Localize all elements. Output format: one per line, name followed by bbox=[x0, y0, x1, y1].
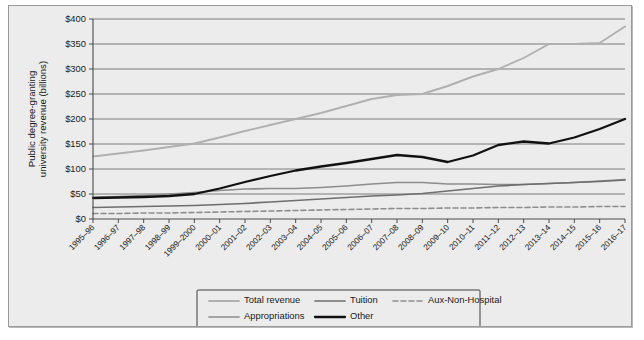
x-tick-label: 2015–16 bbox=[573, 222, 603, 252]
x-tick-label: 2009–10 bbox=[421, 222, 451, 252]
x-tick-label: 2014–15 bbox=[548, 222, 578, 252]
y-tick-label: $0 bbox=[76, 213, 86, 224]
data-series bbox=[93, 27, 625, 214]
figure-frame: $0$50$100$150$200$250$300$350$400 1995–9… bbox=[8, 5, 632, 327]
y-tick-label: $300 bbox=[65, 63, 86, 74]
y-axis-ticks bbox=[89, 19, 93, 219]
x-tick-label: 2004–05 bbox=[294, 222, 324, 252]
series-line-other bbox=[93, 119, 625, 198]
line-chart: $0$50$100$150$200$250$300$350$400 1995–9… bbox=[9, 6, 631, 326]
x-tick-label: 2006–07 bbox=[345, 222, 375, 252]
legend-label-total-revenue: Total revenue bbox=[244, 294, 300, 305]
x-tick-label: 2003–04 bbox=[269, 222, 299, 252]
y-tick-label: $200 bbox=[65, 113, 86, 124]
y-axis-title-line-1: Public degree-granting bbox=[26, 71, 37, 168]
x-tick-label: 2010–11 bbox=[447, 222, 477, 252]
x-tick-label: 2002–03 bbox=[244, 222, 274, 252]
y-axis-title: Public degree-grantinguniversity revenue… bbox=[26, 61, 48, 177]
y-tick-label: $400 bbox=[65, 13, 86, 24]
y-axis-title-line-2: university revenue (billions) bbox=[37, 61, 48, 177]
series-line-aux-non-hospital bbox=[93, 207, 625, 214]
legend-label-aux-non-hospital: Aux-Non-Hospital bbox=[428, 294, 501, 305]
legend-label-tuition: Tuition bbox=[350, 294, 378, 305]
legend-label-other: Other bbox=[350, 310, 373, 321]
chart-legend: Total revenueTuitionAux-Non-HospitalAppr… bbox=[197, 290, 501, 326]
y-tick-label: $250 bbox=[65, 88, 86, 99]
y-axis-tick-labels: $0$50$100$150$200$250$300$350$400 bbox=[65, 13, 86, 224]
x-tick-label: 2012–13 bbox=[497, 222, 527, 252]
x-tick-label: 2016–17 bbox=[598, 222, 628, 252]
x-tick-label: 2011–12 bbox=[472, 222, 502, 252]
legend-label-appropriations: Appropriations bbox=[244, 310, 305, 321]
y-tick-label: $100 bbox=[65, 163, 86, 174]
x-axis-tick-labels: 1995–961996–971997–981998–991999–2000200… bbox=[66, 222, 628, 259]
x-tick-label: 1995–96 bbox=[66, 222, 96, 252]
x-tick-label: 2013–14 bbox=[522, 222, 552, 252]
x-tick-label: 2007–08 bbox=[370, 222, 400, 252]
x-tick-label: 1996–97 bbox=[92, 222, 122, 252]
x-tick-label: 2005–06 bbox=[320, 222, 350, 252]
x-tick-label: 1997–98 bbox=[117, 222, 147, 252]
series-line-total-revenue bbox=[93, 27, 625, 157]
y-tick-label: $350 bbox=[65, 38, 86, 49]
x-tick-label: 2001–02 bbox=[218, 222, 248, 252]
chart-figure: $0$50$100$150$200$250$300$350$400 1995–9… bbox=[0, 0, 644, 340]
x-tick-label: 2000–01 bbox=[193, 222, 223, 252]
x-tick-label: 2008–09 bbox=[396, 222, 426, 252]
y-tick-label: $50 bbox=[70, 188, 86, 199]
y-tick-label: $150 bbox=[65, 138, 86, 149]
